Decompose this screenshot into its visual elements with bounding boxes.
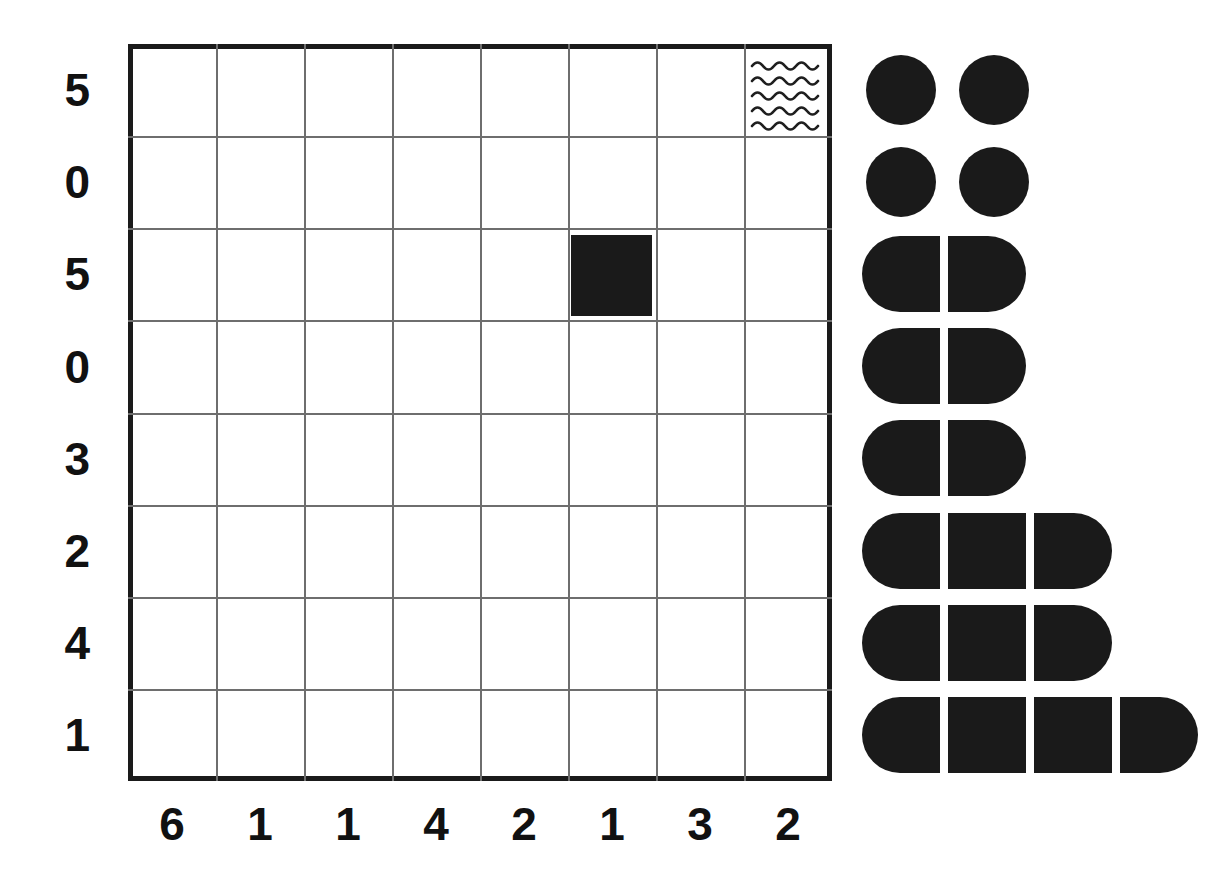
- pictogram-unit-right: [1034, 605, 1112, 681]
- y-axis-label-7: 1: [44, 712, 90, 758]
- y-axis-label-4: 3: [44, 436, 90, 482]
- y-axis-label-5: 2: [44, 528, 90, 574]
- x-axis-label-5: 1: [568, 801, 656, 847]
- grid-inner-lines: [128, 44, 832, 781]
- pictogram-unit-left: [862, 605, 940, 681]
- pictogram-unit-circle: [866, 147, 936, 217]
- y-axis-label-2: 5: [44, 251, 90, 297]
- grid-hline: [128, 413, 832, 415]
- grid-hline: [128, 597, 832, 599]
- pictogram-unit-middle: [948, 513, 1026, 589]
- y-axis-label-0: 5: [44, 67, 90, 113]
- plot-grid: [128, 44, 832, 781]
- filled-square-marker: [571, 235, 652, 316]
- wavy-water-cell: [746, 50, 830, 134]
- grid-hline: [128, 136, 832, 138]
- pictogram-row: [860, 689, 1180, 781]
- grid-hline: [128, 228, 832, 230]
- y-axis-label-3: 0: [44, 344, 90, 390]
- wave-pattern-icon: [746, 50, 830, 134]
- x-axis-label-2: 1: [304, 801, 392, 847]
- pictogram-row: [860, 228, 1180, 320]
- x-axis-label-3: 4: [392, 801, 480, 847]
- pictogram-row: [860, 505, 1180, 597]
- pictogram-unit-right: [1034, 513, 1112, 589]
- pictogram-unit-right: [948, 328, 1026, 404]
- pictogram-unit-left: [862, 513, 940, 589]
- y-axis-label-1: 0: [44, 159, 90, 205]
- pictogram-row: [860, 597, 1180, 689]
- pictogram-unit-right: [948, 420, 1026, 496]
- pictogram-row: [860, 320, 1180, 412]
- pictogram-row: [860, 44, 1180, 136]
- y-axis-label-6: 4: [44, 620, 90, 666]
- pictogram-unit-middle: [948, 697, 1026, 773]
- pictogram-unit-left: [862, 697, 940, 773]
- pictogram-unit-right: [1120, 697, 1198, 773]
- pictogram-unit-left: [862, 328, 940, 404]
- x-axis-label-1: 1: [216, 801, 304, 847]
- pictogram-unit-middle: [948, 605, 1026, 681]
- pictogram-row: [860, 412, 1180, 504]
- pictogram-unit-circle: [959, 55, 1029, 125]
- pictogram-unit-circle: [959, 147, 1029, 217]
- pictogram-row: [860, 136, 1180, 228]
- figure-canvas: 5 0 5 0 3 2 4 1: [0, 0, 1223, 896]
- pictogram-unit-middle: [1034, 697, 1112, 773]
- x-axis-label-4: 2: [480, 801, 568, 847]
- grid-hline: [128, 505, 832, 507]
- x-axis-label-0: 6: [128, 801, 216, 847]
- pictogram-column: [860, 44, 1180, 781]
- grid-hline: [128, 689, 832, 691]
- pictogram-unit-right: [948, 236, 1026, 312]
- x-axis-label-7: 2: [744, 801, 832, 847]
- pictogram-unit-left: [862, 236, 940, 312]
- x-axis-label-6: 3: [656, 801, 744, 847]
- grid-hline: [128, 320, 832, 322]
- pictogram-unit-left: [862, 420, 940, 496]
- pictogram-unit-circle: [866, 55, 936, 125]
